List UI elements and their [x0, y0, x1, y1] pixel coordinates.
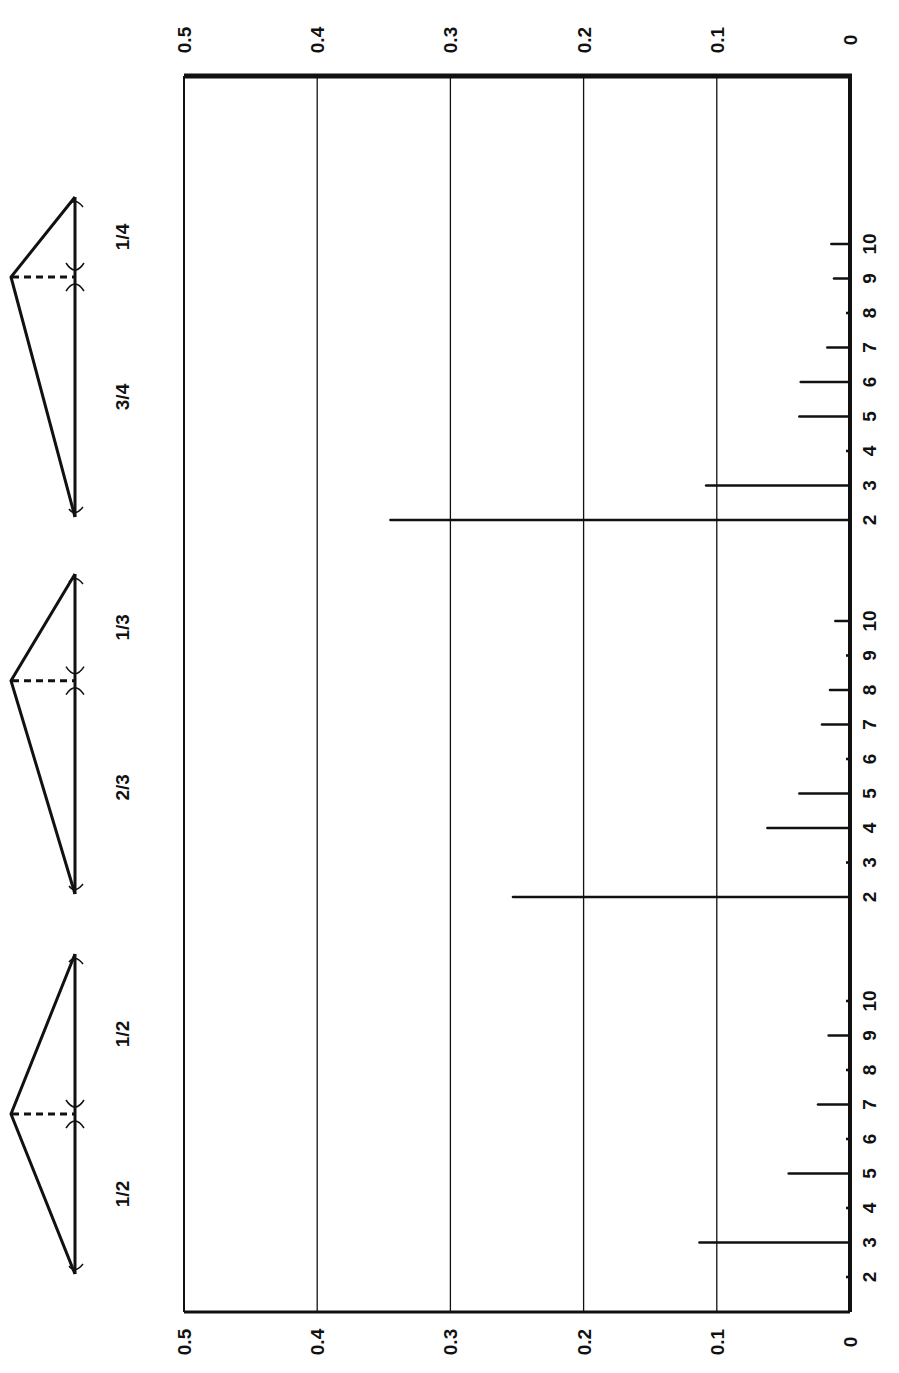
harmonic-spectrum-chart: 00.10.20.30.40.5 00.10.20.30.40.5 234567…: [0, 0, 899, 1373]
string-diagram: 1/21/2: [11, 954, 133, 1274]
value-tick-label-bottom: 0.1: [707, 1328, 728, 1355]
segment-fraction-label: 1/2: [112, 1021, 133, 1047]
harmonic-label: 10: [859, 610, 880, 631]
segment-fraction-label: 1/2: [112, 1181, 133, 1207]
harmonic-label: 6: [859, 377, 880, 388]
harmonic-label: 8: [859, 1065, 880, 1076]
harmonic-label: 2: [859, 892, 880, 903]
harmonic-label: 6: [859, 1134, 880, 1145]
harmonic-label: 4: [859, 822, 880, 833]
value-tick-label-top: 0.5: [174, 26, 195, 53]
segment-fraction-label: 1/4: [112, 223, 133, 250]
segment-fraction-label: 3/4: [112, 383, 133, 410]
value-tick-label-bottom: 0.5: [174, 1328, 195, 1355]
plucked-string-shape: [11, 574, 75, 894]
harmonic-label: 4: [859, 1202, 880, 1213]
harmonic-label: 8: [859, 308, 880, 319]
harmonic-label: 9: [859, 650, 880, 661]
value-tick-label-bottom: 0.3: [440, 1329, 461, 1355]
value-tick-label-bottom: 0.2: [574, 1329, 595, 1355]
value-tick-label-top: 0.4: [307, 26, 328, 53]
value-tick-label-bottom: 0.4: [307, 1328, 328, 1355]
value-tick-label-top: 0.2: [574, 27, 595, 53]
harmonic-label: 4: [859, 445, 880, 456]
harmonic-label: 9: [859, 1030, 880, 1041]
string-diagram: 1/32/3: [11, 574, 133, 894]
value-axis-bottom-labels: 00.10.20.30.40.5: [174, 1328, 861, 1355]
harmonic-label: 2: [859, 1272, 880, 1283]
harmonic-number-labels: 234567891023456789102345678910: [859, 233, 880, 1282]
harmonic-label: 10: [859, 233, 880, 254]
harmonic-label: 6: [859, 754, 880, 765]
harmonic-label: 5: [859, 411, 880, 422]
grid-lines: [317, 76, 717, 1312]
string-pluck-diagrams: 1/43/41/32/31/21/2: [11, 197, 133, 1274]
plot-frame: [184, 76, 852, 1312]
harmonic-label: 3: [859, 857, 880, 868]
harmonic-label: 5: [859, 1168, 880, 1179]
harmonic-label: 7: [859, 342, 880, 353]
value-tick-label-top: 0: [840, 35, 861, 46]
harmonic-label: 3: [859, 480, 880, 491]
string-diagram: 1/43/4: [11, 197, 133, 517]
segment-fraction-label: 1/3: [112, 614, 133, 640]
value-tick-label-bottom: 0: [840, 1337, 861, 1348]
harmonic-label: 5: [859, 788, 880, 799]
harmonic-label: 8: [859, 685, 880, 696]
harmonic-label: 10: [859, 990, 880, 1011]
harmonic-label: 7: [859, 1099, 880, 1110]
segment-fraction-label: 2/3: [112, 774, 133, 800]
value-tick-label-top: 0.3: [440, 27, 461, 53]
value-axis-top-labels: 00.10.20.30.40.5: [174, 26, 861, 53]
value-tick-label-top: 0.1: [707, 26, 728, 53]
harmonic-label: 3: [859, 1237, 880, 1248]
harmonic-label: 7: [859, 719, 880, 730]
plucked-string-shape: [11, 197, 75, 517]
harmonic-label: 9: [859, 273, 880, 284]
harmonic-label: 2: [859, 515, 880, 526]
harmonic-bars: [390, 244, 850, 1277]
